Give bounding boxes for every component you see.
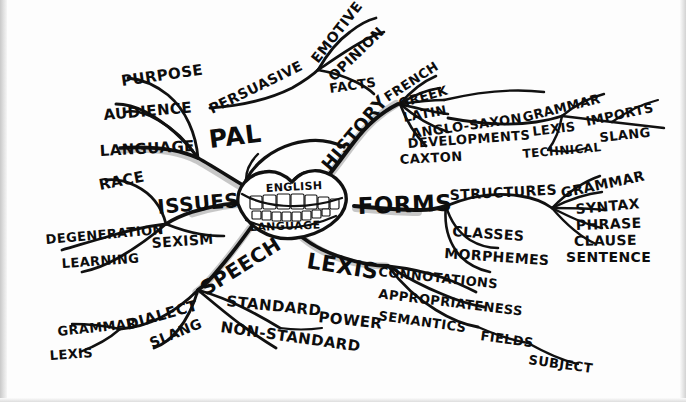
mind-map-canvas: PAL PURPOSE AUDIENCE LANGUAGE PERSUASIVE… [0,0,686,402]
label-technical[interactable]: TECHNICAL [522,140,602,161]
label-fields[interactable]: FIELDS [480,328,535,350]
label-degeneration[interactable]: DEGENERATION [45,222,164,247]
label-issues[interactable]: ISSUES [156,188,240,219]
labels-layer: PAL PURPOSE AUDIENCE LANGUAGE PERSUASIVE… [45,0,655,376]
label-lexis[interactable]: LEXIS [305,248,380,284]
label-semantics[interactable]: SEMANTICS [378,308,468,335]
label-pal[interactable]: PAL [207,119,263,154]
label-standard[interactable]: STANDARD [226,292,323,320]
label-structures[interactable]: STRUCTURES [449,181,557,203]
label-learning[interactable]: LEARNING [61,251,140,271]
label-phrase[interactable]: PHRASE [576,215,642,233]
label-dialect-grammar[interactable]: GRAMMAR [57,316,138,339]
label-history[interactable]: HISTORY [317,91,392,175]
label-clause[interactable]: CLAUSE [574,232,637,249]
label-subject[interactable]: SUBJECT [528,352,594,376]
label-syntax[interactable]: SYNTAX [575,195,641,217]
label-persuasive[interactable]: PERSUASIVE [206,58,305,117]
label-classes[interactable]: CLASSES [452,223,525,244]
label-caxton[interactable]: CAXTON [399,149,463,167]
label-forms[interactable]: FORMS [357,190,452,219]
label-sentence[interactable]: SENTENCE [566,249,651,265]
label-dialect-lexis[interactable]: LEXIS [49,345,93,363]
label-audience[interactable]: AUDIENCE [103,98,193,124]
label-morphemes[interactable]: MORPHEMES [444,245,550,268]
label-history-slang[interactable]: SLANG [599,125,652,145]
mind-map-svg: PAL PURPOSE AUDIENCE LANGUAGE PERSUASIVE… [0,0,686,402]
label-power[interactable]: POWER [318,308,384,333]
label-center-language[interactable]: LANGUAGE [250,219,321,234]
label-sexism[interactable]: SEXISM [151,231,214,251]
label-purpose[interactable]: PURPOSE [120,61,204,90]
label-race[interactable]: RACE [97,167,146,193]
